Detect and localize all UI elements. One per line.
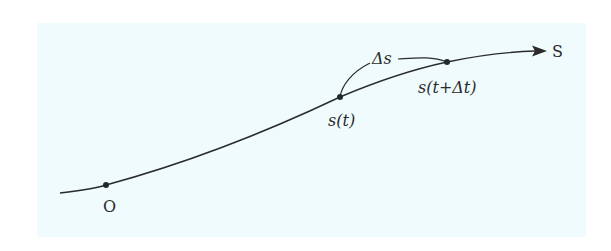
point-s-t-dt bbox=[444, 59, 450, 65]
delta-s-brace-right bbox=[398, 58, 447, 62]
delta-s-brace bbox=[340, 63, 370, 97]
trajectory-curve bbox=[60, 51, 535, 193]
trajectory-diagram bbox=[0, 0, 611, 251]
point-origin bbox=[103, 182, 109, 188]
label-point-t-dt: s(t+Δt) bbox=[418, 80, 477, 96]
point-s-t bbox=[337, 94, 343, 100]
label-point-t: s(t) bbox=[328, 113, 355, 129]
label-end: S bbox=[552, 44, 563, 60]
label-origin: O bbox=[103, 199, 116, 215]
label-delta-s: Δs bbox=[372, 51, 392, 67]
